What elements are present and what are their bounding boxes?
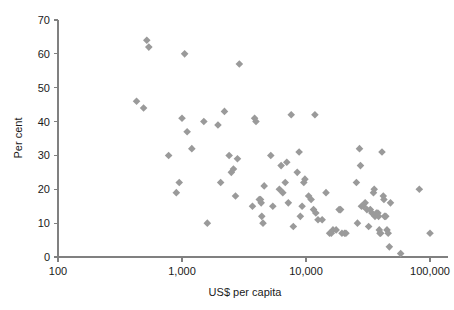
data-point — [365, 223, 373, 231]
x-tick-label: 100 — [49, 265, 67, 277]
data-point — [249, 202, 257, 210]
x-axis: 1001,00010,000100,000 — [49, 257, 450, 277]
x-axis-title: US$ per capita — [209, 286, 283, 298]
chart-canvas: 010203040506070 1001,00010,000100,000 US… — [0, 0, 454, 310]
data-point — [200, 118, 208, 126]
data-point — [145, 43, 153, 51]
data-point — [298, 202, 306, 210]
data-point — [397, 250, 405, 258]
data-point — [322, 189, 330, 197]
x-tick-label: 10,000 — [289, 265, 323, 277]
data-points — [133, 37, 434, 258]
y-tick-label: 50 — [38, 82, 50, 94]
data-point — [387, 199, 395, 207]
y-tick-label: 60 — [38, 48, 50, 60]
data-point — [217, 179, 225, 187]
data-point — [354, 219, 362, 227]
data-point — [287, 111, 295, 119]
y-tick-label: 20 — [38, 183, 50, 195]
data-point — [173, 189, 181, 197]
data-point — [175, 179, 183, 187]
data-point — [318, 216, 326, 224]
data-point — [337, 206, 345, 214]
x-tick-label: 100,000 — [410, 265, 450, 277]
data-point — [297, 213, 305, 221]
x-tick-label: 1,000 — [168, 265, 196, 277]
data-point — [183, 128, 191, 136]
data-point — [281, 179, 289, 187]
data-point — [225, 152, 233, 160]
data-point — [165, 152, 173, 160]
data-point — [143, 37, 151, 45]
data-point — [426, 230, 434, 238]
data-point — [382, 213, 390, 221]
data-point — [221, 108, 229, 116]
data-point — [267, 152, 275, 160]
y-tick-label: 40 — [38, 116, 50, 128]
data-point — [260, 182, 268, 190]
data-point — [133, 97, 141, 105]
data-point — [357, 162, 365, 170]
data-point — [234, 155, 242, 163]
data-point — [295, 148, 303, 156]
data-point — [293, 169, 301, 177]
y-axis-title: Per cent — [12, 118, 24, 159]
data-point — [258, 213, 266, 221]
data-point — [232, 192, 240, 200]
scatter-chart: 010203040506070 1001,00010,000100,000 US… — [0, 0, 454, 310]
y-axis: 010203040506070 — [38, 14, 58, 263]
data-point — [214, 121, 222, 129]
data-point — [204, 219, 212, 227]
data-point — [188, 145, 196, 153]
data-point — [311, 111, 319, 119]
data-point — [416, 185, 424, 193]
data-point — [140, 104, 148, 112]
y-tick-label: 30 — [38, 149, 50, 161]
y-tick-label: 0 — [44, 251, 50, 263]
data-point — [269, 202, 277, 210]
y-tick-label: 70 — [38, 14, 50, 26]
data-point — [236, 60, 244, 68]
data-point — [259, 219, 267, 227]
data-point — [386, 243, 394, 251]
y-tick-label: 10 — [38, 217, 50, 229]
data-point — [353, 179, 361, 187]
data-point — [178, 114, 186, 122]
data-point — [285, 199, 293, 207]
data-point — [342, 230, 350, 238]
data-point — [356, 145, 364, 153]
data-point — [378, 148, 386, 156]
data-point — [290, 223, 298, 231]
data-point — [181, 50, 189, 58]
